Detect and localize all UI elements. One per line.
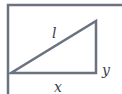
label-horizontal-leg: x [54,79,62,94]
label-hypotenuse: l [52,25,56,41]
label-vertical-leg: y [101,62,111,78]
outer-frame [8,5,122,94]
diagram-canvas: l y x [0,0,122,94]
